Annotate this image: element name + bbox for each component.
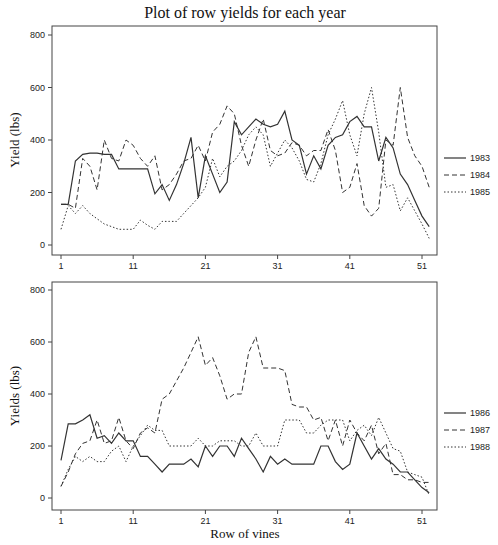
y-tick-label: 0 (40, 493, 45, 503)
x-tick-label: 21 (200, 516, 210, 526)
x-tick-label: 41 (345, 516, 355, 526)
top-y-axis: 0200400600800 (30, 30, 52, 250)
bottom-series-lines (61, 337, 429, 496)
x-tick-label: 31 (273, 261, 283, 271)
bottom-panel: 0200400600800 11121314151 Yields (lbs) 1… (7, 282, 490, 541)
y-tick-label: 600 (30, 337, 45, 347)
series-line-1984 (61, 88, 429, 217)
legend-label-1986: 1986 (470, 408, 490, 418)
y-tick-label: 200 (30, 441, 45, 451)
top-panel: 0200400600800 11121314151 Yield (lbs) 19… (7, 26, 490, 271)
bottom-x-axis-title: Row of vines (210, 526, 279, 541)
top-series-lines (61, 88, 429, 239)
x-tick-label: 21 (200, 261, 210, 271)
chart-title: Plot of row yields for each year (144, 4, 346, 22)
series-line-1983 (61, 111, 429, 227)
legend-label-1983: 1983 (470, 153, 490, 163)
x-tick-label: 1 (58, 516, 63, 526)
x-tick-label: 31 (273, 516, 283, 526)
y-tick-label: 400 (30, 135, 45, 145)
y-tick-label: 800 (30, 285, 45, 295)
y-tick-label: 0 (40, 240, 45, 250)
legend-label-1987: 1987 (470, 425, 490, 435)
bottom-legend: 198619871988 (444, 408, 490, 452)
legend-label-1984: 1984 (470, 170, 490, 180)
x-tick-label: 51 (417, 261, 427, 271)
legend-label-1988: 1988 (470, 442, 490, 452)
bottom-y-axis-title: Yields (lbs) (7, 366, 22, 426)
x-tick-label: 1 (58, 261, 63, 271)
x-tick-label: 51 (417, 516, 427, 526)
top-plot-frame (52, 26, 437, 255)
y-tick-label: 600 (30, 83, 45, 93)
legend-label-1985: 1985 (470, 187, 490, 197)
x-tick-label: 11 (129, 516, 138, 526)
x-tick-label: 41 (345, 261, 355, 271)
top-legend: 198319841985 (444, 153, 490, 197)
y-tick-label: 800 (30, 30, 45, 40)
series-line-1986 (61, 415, 429, 493)
series-line-1987 (61, 337, 429, 487)
x-tick-label: 11 (129, 261, 138, 271)
bottom-x-axis: 11121314151 (58, 510, 427, 526)
bottom-y-axis: 0200400600800 (30, 285, 52, 503)
y-tick-label: 400 (30, 389, 45, 399)
chart-figure: Plot of row yields for each year 0200400… (0, 0, 498, 545)
top-y-axis-title: Yield (lbs) (7, 112, 22, 167)
top-x-axis: 11121314151 (58, 255, 427, 271)
y-tick-label: 200 (30, 188, 45, 198)
bottom-plot-frame (52, 282, 437, 510)
